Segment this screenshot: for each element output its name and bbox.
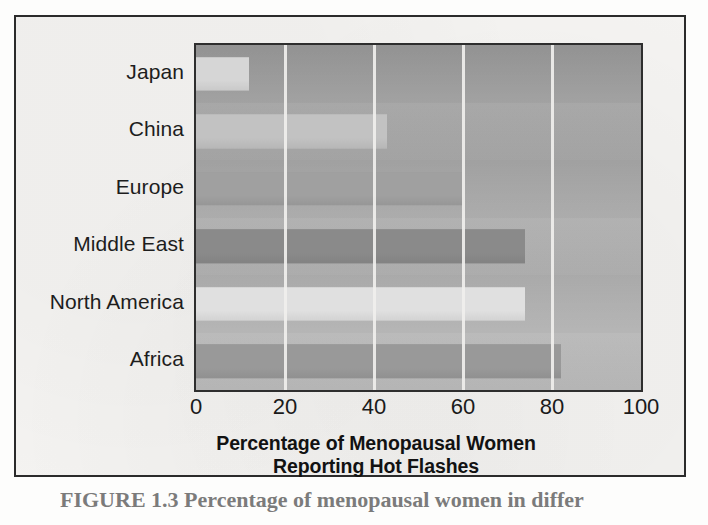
gridline <box>373 45 376 390</box>
bar-chart: JapanChinaEuropeMiddle EastNorth America… <box>16 17 688 479</box>
category-label-middle-east: Middle East <box>16 232 184 256</box>
x-axis-title-line-2: Reporting Hot Flashes <box>116 455 636 478</box>
x-axis-title: Percentage of Menopausal Women Reporting… <box>116 432 636 478</box>
gridline <box>462 45 465 390</box>
x-axis: 020406080100 <box>194 390 643 430</box>
category-label-africa: Africa <box>16 347 184 371</box>
x-tick-label-40: 40 <box>362 394 386 420</box>
gridline <box>284 45 287 390</box>
gridline <box>551 45 554 390</box>
x-tick-label-20: 20 <box>273 394 297 420</box>
category-axis: JapanChinaEuropeMiddle EastNorth America… <box>16 43 190 388</box>
x-tick-label-80: 80 <box>540 394 564 420</box>
x-axis-title-line-1: Percentage of Menopausal Women <box>116 432 636 455</box>
figure-frame: JapanChinaEuropeMiddle EastNorth America… <box>14 15 686 477</box>
plot-area <box>194 43 643 392</box>
category-label-china: China <box>16 117 184 141</box>
category-label-japan: Japan <box>16 60 184 84</box>
figure-caption: FIGURE 1.3 Percentage of menopausal wome… <box>60 487 680 513</box>
x-tick-label-0: 0 <box>190 394 202 420</box>
category-label-north-america: North America <box>16 290 184 314</box>
category-label-europe: Europe <box>16 175 184 199</box>
x-tick-label-100: 100 <box>623 394 660 420</box>
gridlines-layer <box>196 45 641 390</box>
x-tick-label-60: 60 <box>451 394 475 420</box>
